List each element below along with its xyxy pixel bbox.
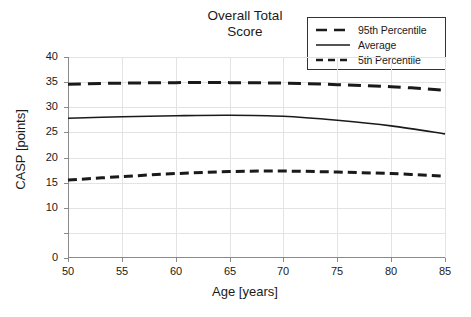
y-tick-mark: [64, 208, 68, 209]
y-tick-mark: [64, 183, 68, 184]
y-axis-title: CASP [points]: [13, 85, 28, 215]
x-tick-mark: [176, 258, 177, 262]
x-tick-label: 70: [268, 265, 298, 277]
y-tick-mark: [64, 158, 68, 159]
x-tick-label: 60: [161, 265, 191, 277]
y-tick-label: 20: [32, 151, 58, 163]
legend-item-95th: 95th Percentile: [308, 22, 445, 37]
x-tick-mark: [337, 258, 338, 262]
series-line: [68, 171, 445, 180]
legend-label-95th: 95th Percentile: [358, 24, 427, 36]
x-tick-label: 55: [107, 265, 137, 277]
legend-item-average: Average: [308, 37, 445, 52]
y-tick-label: 40: [32, 50, 58, 62]
x-axis-title: Age [years]: [155, 284, 335, 299]
x-tick-label: 80: [376, 265, 406, 277]
y-tick-label: 25: [32, 125, 58, 137]
y-tick-mark: [64, 132, 68, 133]
x-tick-label: 75: [322, 265, 352, 277]
legend-swatch-solid-line: [315, 40, 351, 50]
series-line: [68, 83, 445, 91]
y-tick-label: 30: [32, 100, 58, 112]
x-tick-label: 50: [53, 265, 83, 277]
gridline-vertical: [445, 57, 446, 258]
chart-title: Overall Total Score: [175, 8, 315, 40]
x-tick-label: 85: [430, 265, 460, 277]
y-tick-mark: [64, 82, 68, 83]
x-tick-mark: [445, 258, 446, 262]
legend-label-average: Average: [358, 39, 396, 51]
plot-area: [68, 57, 445, 258]
y-tick-label: 0: [32, 251, 58, 263]
x-tick-mark: [230, 258, 231, 262]
y-tick-mark: [64, 107, 68, 108]
y-tick-label: 35: [32, 75, 58, 87]
series-lines: [68, 57, 445, 258]
x-tick-mark: [122, 258, 123, 262]
chart-figure: Overall Total Score 95th Percentile Aver…: [0, 0, 471, 317]
y-tick-label: 10: [32, 201, 58, 213]
x-tick-mark: [283, 258, 284, 262]
series-line: [68, 115, 445, 134]
y-tick-mark: [64, 57, 68, 58]
legend-swatch-long-dashed-line: [315, 25, 351, 35]
x-tick-mark: [68, 258, 69, 262]
x-tick-label: 65: [215, 265, 245, 277]
x-tick-mark: [391, 258, 392, 262]
y-tick-mark: [64, 233, 68, 234]
y-tick-label: 15: [32, 176, 58, 188]
